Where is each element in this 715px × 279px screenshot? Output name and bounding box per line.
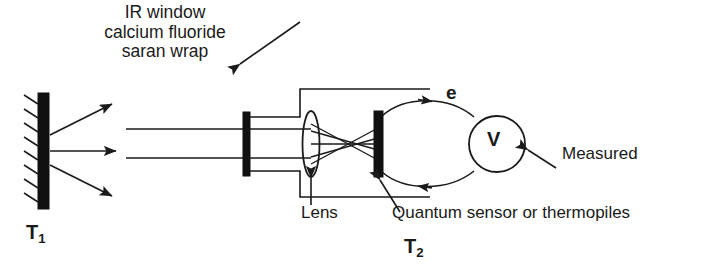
radiation-ray-lower bbox=[50, 165, 112, 196]
detector-temperature-subscript: 2 bbox=[416, 245, 423, 260]
circuit-top-wire bbox=[382, 101, 474, 117]
ir-window-caption-line-3: saran wrap bbox=[0, 42, 330, 62]
radiation-rays bbox=[50, 104, 116, 196]
measured-label: Measured bbox=[562, 144, 638, 163]
circuit-loop bbox=[382, 100, 474, 189]
detector-bar bbox=[374, 111, 383, 177]
source-wall-bar bbox=[38, 93, 49, 209]
source-temperature-label: T1 bbox=[26, 221, 46, 246]
enclosure-bottom-wall bbox=[246, 171, 430, 197]
lens-label: Lens bbox=[301, 203, 338, 222]
detector-label: Quantum sensor or thermopiles bbox=[392, 203, 630, 222]
source-wall-hatching bbox=[24, 95, 38, 202]
circuit-bottom-wire bbox=[382, 171, 474, 187]
enclosure-top-wall bbox=[246, 89, 430, 117]
leader-measured bbox=[528, 150, 556, 168]
ray-bundle-crossing bbox=[246, 124, 378, 164]
ir-window-bar bbox=[243, 112, 250, 176]
incident-beam-lines bbox=[126, 129, 246, 158]
source-temperature-subscript: 1 bbox=[38, 231, 45, 246]
detector-temperature-symbol: T bbox=[404, 235, 416, 257]
detector-temperature-label: T2 bbox=[404, 235, 424, 260]
ir-window-caption-line-2: calcium fluoride bbox=[0, 23, 330, 43]
source-temperature-symbol: T bbox=[26, 221, 38, 243]
ir-window-caption-line-1: IR window bbox=[0, 3, 330, 23]
thermal-radiation-sensor-diagram: IR window calcium fluoride saran wrap T1… bbox=[0, 0, 715, 279]
blackbody-source-wall bbox=[24, 93, 49, 209]
voltmeter-label: V bbox=[487, 128, 500, 150]
instrument-enclosure bbox=[246, 89, 430, 197]
ir-window-caption: IR window calcium fluoride saran wrap bbox=[0, 3, 330, 62]
electron-flow-label: e bbox=[446, 82, 457, 103]
radiation-ray-upper bbox=[50, 104, 112, 135]
